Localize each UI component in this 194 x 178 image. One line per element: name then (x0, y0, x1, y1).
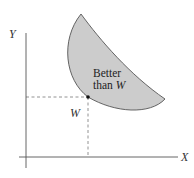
y-axis-label: Y (9, 27, 17, 41)
region-label-line2: than W (93, 79, 127, 91)
x-axis-label: X (180, 150, 189, 164)
region-label-line1: Better (93, 67, 121, 79)
region-label-var: W (116, 79, 127, 91)
region-label-prefix: than (93, 79, 116, 91)
point-w-label: W (70, 106, 81, 120)
point-w-marker (86, 95, 90, 99)
diagram-canvas: Y X W Better than W (0, 0, 194, 178)
better-than-w-region (68, 14, 165, 110)
